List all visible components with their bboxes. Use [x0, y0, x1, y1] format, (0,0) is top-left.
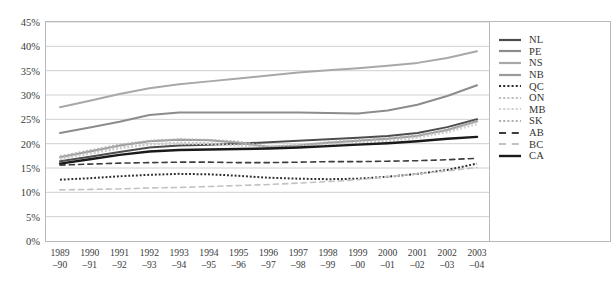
- x-tick-label-year-end: –00: [348, 259, 367, 271]
- legend-swatch-icon: [499, 104, 521, 114]
- x-tick-label-year-start: 1997: [289, 247, 308, 259]
- x-tick-label-year-start: 1999: [348, 247, 367, 259]
- legend-label: NB: [529, 69, 544, 80]
- legend-label: MB: [529, 104, 546, 115]
- x-tick-label: 1990–91: [80, 247, 99, 271]
- x-tick-label-year-start: 1998: [318, 247, 337, 259]
- x-tick-label-year-end: –95: [199, 259, 218, 271]
- x-tick-label-year-start: 1991: [110, 247, 129, 259]
- line-chart: 0%5%10%15%20%25%30%35%40%45% 1989–901990…: [0, 0, 614, 290]
- x-tick-label: 1991–92: [110, 247, 129, 271]
- legend-label: SK: [529, 115, 543, 126]
- x-tick-label-year-end: –93: [140, 259, 159, 271]
- x-tick-label-year-start: 2000: [378, 247, 397, 259]
- legend-label: NL: [529, 34, 543, 45]
- legend-swatch-icon: [499, 151, 521, 161]
- x-tick-label: 2001–02: [408, 247, 427, 271]
- legend-swatch-icon: [499, 70, 521, 80]
- x-tick-label-year-end: –96: [229, 259, 248, 271]
- x-tick-label-year-end: –04: [467, 259, 486, 271]
- x-tick-label-year-end: –97: [259, 259, 278, 271]
- legend-item-qc[interactable]: QC: [499, 80, 599, 92]
- legend-label: BC: [529, 139, 543, 150]
- x-tick-label-year-end: –98: [289, 259, 308, 271]
- x-tick-label: 1992–93: [140, 247, 159, 271]
- x-tick-label: 2000–01: [378, 247, 397, 271]
- legend-label: QC: [529, 81, 544, 92]
- x-tick-label-year-end: –90: [50, 259, 69, 271]
- legend-item-pe[interactable]: PE: [499, 46, 599, 58]
- legend-swatch-icon: [499, 35, 521, 45]
- legend-item-ca[interactable]: CA: [499, 150, 599, 162]
- legend-swatch-icon: [499, 46, 521, 56]
- legend-item-bc[interactable]: BC: [499, 138, 599, 150]
- legend-swatch-icon: [499, 58, 521, 68]
- x-tick-label-year-end: –02: [408, 259, 427, 271]
- x-tick-label: 1989–90: [50, 247, 69, 271]
- legend-item-ab[interactable]: AB: [499, 127, 599, 139]
- legend-label: CA: [529, 150, 544, 161]
- legend-label: NS: [529, 57, 543, 68]
- x-tick-label: 1995–96: [229, 247, 248, 271]
- legend-label: PE: [529, 46, 542, 57]
- legend-swatch-icon: [499, 93, 521, 103]
- x-tick-label-year-start: 1993: [170, 247, 189, 259]
- x-tick-label-year-end: –94: [170, 259, 189, 271]
- x-tick-label-year-start: 1995: [229, 247, 248, 259]
- legend-item-mb[interactable]: MB: [499, 104, 599, 116]
- x-tick-label-year-start: 1992: [140, 247, 159, 259]
- legend-item-ns[interactable]: NS: [499, 57, 599, 69]
- x-tick-label: 2002–03: [438, 247, 457, 271]
- legend-item-nl[interactable]: NL: [499, 34, 599, 46]
- x-tick-label: 1994–95: [199, 247, 218, 271]
- legend-swatch-icon: [499, 81, 521, 91]
- x-tick-label-year-start: 1989: [50, 247, 69, 259]
- x-tick-label-year-start: 2001: [408, 247, 427, 259]
- x-tick-label: 1996–97: [259, 247, 278, 271]
- x-tick-label: 2003–04: [467, 247, 486, 271]
- x-tick-label: 1993–94: [170, 247, 189, 271]
- x-tick-label-year-end: –03: [438, 259, 457, 271]
- x-tick-label: 1998–99: [318, 247, 337, 271]
- x-tick-label-year-end: –91: [80, 259, 99, 271]
- legend-label: ON: [529, 92, 545, 103]
- x-tick-label-year-start: 2002: [438, 247, 457, 259]
- legend-item-sk[interactable]: SK: [499, 115, 599, 127]
- legend-swatch-icon: [499, 116, 521, 126]
- legend-item-nb[interactable]: NB: [499, 69, 599, 81]
- legend-item-on[interactable]: ON: [499, 92, 599, 104]
- x-tick-label: 1997–98: [289, 247, 308, 271]
- legend-swatch-icon: [499, 128, 521, 138]
- chart-legend: NLPENSNBQCONMBSKABBCCA: [499, 34, 599, 162]
- legend-label: AB: [529, 127, 544, 138]
- legend-swatch-icon: [499, 139, 521, 149]
- x-tick-label-year-start: 1994: [199, 247, 218, 259]
- x-tick-label-year-end: –99: [318, 259, 337, 271]
- x-tick-label: 1999–00: [348, 247, 367, 271]
- x-tick-label-year-end: –01: [378, 259, 397, 271]
- x-tick-label-year-end: –92: [110, 259, 129, 271]
- x-tick-label-year-start: 1996: [259, 247, 278, 259]
- x-tick-label-year-start: 2003: [467, 247, 486, 259]
- x-tick-label-year-start: 1990: [80, 247, 99, 259]
